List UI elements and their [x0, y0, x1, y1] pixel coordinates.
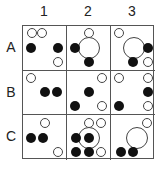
filled-circle-icon: [26, 43, 36, 53]
hollow-circle-icon: [143, 57, 153, 67]
cell-a3: [111, 26, 155, 71]
large-hollow-circle-icon: [78, 37, 100, 59]
cell-c1: [23, 115, 67, 160]
hollow-circle-icon: [143, 73, 153, 83]
filled-circle-icon: [128, 147, 138, 157]
filled-circle-icon: [52, 87, 62, 97]
filled-circle-icon: [114, 101, 124, 111]
hollow-circle-icon: [143, 101, 153, 111]
hollow-circle-icon: [97, 73, 107, 83]
hollow-circle-icon: [53, 57, 63, 67]
filled-circle-icon: [53, 43, 63, 53]
filled-circle-icon: [84, 87, 94, 97]
row-label-c: C: [3, 128, 19, 144]
hollow-circle-icon: [97, 101, 107, 111]
filled-circle-icon: [128, 57, 138, 67]
hollow-circle-icon: [114, 73, 124, 83]
hollow-circle-icon: [27, 28, 37, 38]
filled-circle-icon: [70, 101, 80, 111]
column-label-2: 2: [66, 3, 110, 19]
cell-b1: [23, 71, 67, 116]
hollow-circle-icon: [84, 118, 94, 128]
cell-a2: [67, 26, 111, 71]
filled-circle-icon: [71, 147, 81, 157]
filled-circle-icon: [71, 133, 81, 143]
row-label-a: A: [3, 39, 19, 55]
hollow-circle-icon: [96, 118, 106, 128]
filled-circle-icon: [143, 87, 153, 97]
hollow-circle-icon: [40, 118, 50, 128]
filled-circle-icon: [70, 43, 80, 53]
filled-circle-icon: [40, 87, 50, 97]
hollow-circle-icon: [114, 28, 124, 38]
column-label-3: 3: [110, 3, 154, 19]
hollow-circle-icon: [84, 28, 94, 38]
column-label-1: 1: [22, 3, 66, 19]
cell-c2: [67, 115, 111, 160]
filled-circle-icon: [84, 147, 94, 157]
cell-c3: [111, 115, 155, 160]
hollow-circle-icon: [53, 147, 63, 157]
hollow-circle-icon: [142, 118, 152, 128]
row-label-b: B: [3, 84, 19, 100]
hollow-circle-icon: [26, 73, 36, 83]
filled-circle-icon: [116, 147, 126, 157]
hollow-circle-icon: [37, 28, 47, 38]
cell-b3: [111, 71, 155, 116]
filled-circle-icon: [84, 57, 94, 67]
filled-circle-icon: [84, 133, 94, 143]
filled-circle-icon: [26, 133, 36, 143]
cell-a1: [23, 26, 67, 71]
large-hollow-circle-icon: [123, 37, 145, 59]
cell-b2: [67, 71, 111, 116]
puzzle-grid: [22, 25, 154, 159]
filled-circle-icon: [143, 43, 153, 53]
large-hollow-circle-icon: [126, 127, 148, 149]
filled-circle-icon: [38, 133, 48, 143]
hollow-circle-icon: [96, 147, 106, 157]
